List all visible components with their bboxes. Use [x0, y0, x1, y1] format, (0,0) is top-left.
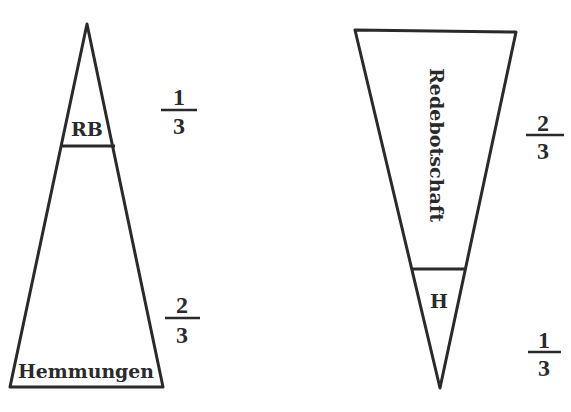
fraction-denominator: 3: [173, 113, 185, 139]
fraction-numerator: 2: [176, 292, 188, 318]
label-hemmungen: Hemmungen: [18, 360, 154, 382]
fraction-numerator: 1: [538, 327, 550, 353]
fraction-left-bottom: 2 3: [165, 292, 200, 348]
fraction-right-bottom: 1 3: [528, 327, 561, 381]
fraction-numerator: 1: [173, 84, 185, 110]
label-redebotschaft: Redebotschaft: [426, 68, 448, 222]
left-triangle: RB Hemmungen: [10, 24, 163, 387]
fraction-right-top: 2 3: [526, 110, 564, 164]
fraction-denominator: 3: [537, 138, 549, 164]
fraction-denominator: 3: [176, 322, 188, 348]
fraction-numerator: 2: [537, 110, 549, 136]
left-triangle-outline: [10, 24, 163, 387]
label-h: H: [430, 290, 448, 312]
fraction-denominator: 3: [538, 355, 550, 381]
right-triangle: Redebotschaft H: [355, 30, 516, 388]
label-rb: RB: [71, 118, 103, 140]
diagram-canvas: RB Hemmungen 1 3 2 3 Redebotschaft H 2 3…: [0, 0, 571, 412]
fraction-left-top: 1 3: [161, 84, 197, 139]
